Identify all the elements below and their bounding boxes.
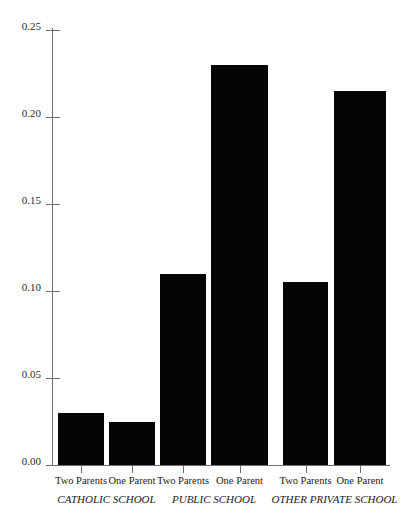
bar [160,274,206,465]
y-axis-line [52,28,53,466]
y-tick-label: 0.05 [22,369,41,380]
y-tick-label: 0.25 [22,21,41,32]
y-tick-label: 0.00 [22,456,41,467]
bar-chart: 0.000.050.100.150.200.25 Two ParentsOne … [0,0,411,529]
bar [334,91,386,465]
x-group-label: PUBLIC SCHOOL [172,492,256,506]
x-category-label: One Parent [337,474,384,487]
x-category-label: Two Parents [279,474,331,487]
x-group-label: OTHER PRIVATE SCHOOL [272,492,398,506]
x-tick-mark [240,466,241,473]
y-tick-mark [46,291,60,292]
y-tick-mark [46,378,60,379]
bar [58,413,104,465]
y-tick-label: 0.10 [22,282,41,293]
bar [211,65,268,465]
x-category-label: One Parent [109,474,156,487]
x-category-label: Two Parents [157,474,209,487]
x-tick-mark [183,466,184,473]
x-tick-mark [132,466,133,473]
y-tick-mark [46,30,60,31]
y-tick-mark [46,117,60,118]
x-tick-mark [81,466,82,473]
x-category-label: Two Parents [55,474,107,487]
x-axis-line [52,465,390,466]
y-tick-label: 0.20 [22,108,41,119]
y-tick-mark [46,204,60,205]
x-category-label: One Parent [216,474,263,487]
x-tick-mark [306,466,307,473]
x-group-label: CATHOLIC SCHOOL [57,492,155,506]
y-tick-label: 0.15 [22,195,41,206]
bar [109,422,155,466]
x-tick-mark [360,466,361,473]
bar [283,282,328,465]
